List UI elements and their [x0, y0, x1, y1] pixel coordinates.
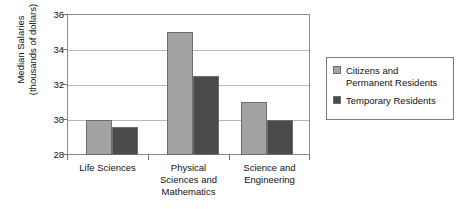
- y-axis-title: Median Salaries (thousands of dollars): [15, 0, 38, 120]
- legend-item-citizens: Citizens and Permanent Residents: [333, 65, 448, 88]
- bar-life-sciences-citizens: [86, 120, 112, 155]
- bar-life-sciences-temporary: [112, 127, 138, 155]
- x-tick-mark: [67, 155, 68, 160]
- bar-science-engineering-citizens: [241, 102, 267, 155]
- legend-swatch-icon: [333, 66, 341, 74]
- bar-physical-sciences-citizens: [167, 32, 193, 155]
- bars-layer: [67, 14, 310, 155]
- x-tick-mark: [309, 155, 310, 160]
- legend-item-temporary: Temporary Residents: [333, 95, 448, 107]
- x-axis-label-life-sciences: Life Sciences: [62, 162, 153, 174]
- bar-chart: Median Salaries (thousands of dollars) 3…: [0, 0, 460, 209]
- bar-science-engineering-temporary: [267, 120, 293, 155]
- legend-label: Temporary Residents: [346, 95, 436, 107]
- bar-physical-sciences-temporary: [193, 76, 219, 155]
- x-tick-mark: [229, 155, 230, 160]
- x-axis-label-science-engineering: Science and Engineering: [224, 162, 315, 186]
- legend-swatch-icon: [333, 96, 341, 104]
- legend: Citizens and Permanent Residents Tempora…: [326, 57, 454, 120]
- x-tick-mark: [148, 155, 149, 160]
- legend-label: Citizens and Permanent Residents: [346, 65, 437, 88]
- x-axis-label-physical-sciences: Physical Sciences and Mathematics: [143, 162, 234, 198]
